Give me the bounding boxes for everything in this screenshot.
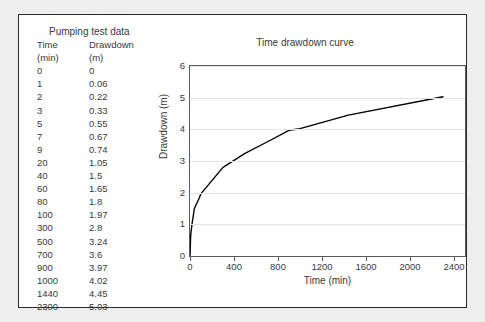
cell-drawdown: 0.06 [89,77,153,90]
table-row: 70.67 [37,130,157,143]
cell-drawdown: 3.24 [89,235,153,248]
x-axis-label: Time (min) [189,275,466,286]
cell-time: 1440 [37,287,89,300]
table-row: 201.05 [37,156,157,169]
x-tick-label: 400 [214,261,254,272]
cell-time: 5 [37,117,89,130]
gridline [190,161,465,162]
cell-time: 3 [37,104,89,117]
x-tick-label: 1200 [302,261,342,272]
cell-drawdown: 3.97 [89,261,153,274]
cell-time: 300 [37,221,89,234]
cell-drawdown: 1.97 [89,208,153,221]
cell-time: 7 [37,130,89,143]
cell-time: 700 [37,248,89,261]
cell-drawdown: 2.8 [89,221,153,234]
column-header-time: Time [37,38,89,51]
table-row: 00 [37,64,157,77]
column-unit-time: (min) [37,51,89,64]
column-header-drawdown: Drawdown [89,38,153,51]
table-row: 10004.02 [37,274,157,287]
x-tick-label: 800 [258,261,298,272]
cell-drawdown: 1.05 [89,156,153,169]
table-row: 10.06 [37,77,157,90]
x-tick-label: 0 [170,261,210,272]
x-tick-label: 2400 [434,261,474,272]
cell-time: 2 [37,90,89,103]
cell-drawdown: 4.45 [89,287,153,300]
x-axis-ticks: 04008001200160020002400 [189,257,466,277]
gridline [190,66,465,67]
cell-time: 60 [37,182,89,195]
table-header-row: Time Drawdown [37,38,157,51]
table-unit-row: (min) (m) [37,51,157,64]
column-unit-drawdown: (m) [89,51,153,64]
table-body: 0010.0620.2230.3350.5570.6790.74201.0540… [37,64,157,313]
cell-drawdown: 1.5 [89,169,153,182]
x-tick-label: 1600 [346,261,386,272]
y-tick-label: 3 [157,155,185,166]
gridline [190,98,465,99]
cell-time: 1 [37,77,89,90]
cell-time: 9 [37,143,89,156]
cell-drawdown: 1.65 [89,182,153,195]
y-tick-label: 4 [157,123,185,134]
table-row: 3002.8 [37,221,157,234]
gridline [190,129,465,130]
cell-time: 80 [37,195,89,208]
cell-drawdown: 0 [89,64,153,77]
screenshot-root: Pumping test data Time Drawdown (min) (m… [0,0,485,322]
cell-drawdown: 1.8 [89,195,153,208]
cell-drawdown: 0.33 [89,104,153,117]
y-tick-label: 0 [157,250,185,261]
table-row: 401.5 [37,169,157,182]
table-row: 601.65 [37,182,157,195]
pumping-test-data-table: Pumping test data Time Drawdown (min) (m… [37,25,157,313]
cell-time: 2300 [37,300,89,313]
cell-drawdown: 0.74 [89,143,153,156]
y-tick-label: 1 [157,218,185,229]
y-tick-label: 2 [157,187,185,198]
figure-panel: Pumping test data Time Drawdown (min) (m… [18,14,467,308]
table-row: 90.74 [37,143,157,156]
chart-title: Time drawdown curve [151,37,459,48]
plot-area [189,65,466,257]
cell-drawdown: 0.22 [89,90,153,103]
table-title: Pumping test data [37,25,157,38]
cell-time: 900 [37,261,89,274]
gridline [190,224,465,225]
cell-time: 100 [37,208,89,221]
cell-drawdown: 3.6 [89,248,153,261]
y-tick-label: 5 [157,92,185,103]
y-tick-label: 6 [157,60,185,71]
cell-time: 1000 [37,274,89,287]
table-row: 14404.45 [37,287,157,300]
table-row: 20.22 [37,90,157,103]
cell-time: 20 [37,156,89,169]
table-row: 7003.6 [37,248,157,261]
cell-drawdown: 4.02 [89,274,153,287]
gridline [190,193,465,194]
y-axis-ticks: 0123456 [151,65,185,257]
chart-block: Time drawdown curve Drawdown (m) 0123456… [151,25,459,303]
cell-drawdown: 0.67 [89,130,153,143]
table-row: 50.55 [37,117,157,130]
table-row: 9003.97 [37,261,157,274]
table-row: 1001.97 [37,208,157,221]
x-tick-label: 2000 [390,261,430,272]
table-row: 23005.03 [37,300,157,313]
cell-time: 40 [37,169,89,182]
cell-time: 500 [37,235,89,248]
cell-drawdown: 0.55 [89,117,153,130]
table-row: 30.33 [37,104,157,117]
table-row: 5003.24 [37,235,157,248]
cell-time: 0 [37,64,89,77]
cell-drawdown: 5.03 [89,300,153,313]
table-row: 801.8 [37,195,157,208]
